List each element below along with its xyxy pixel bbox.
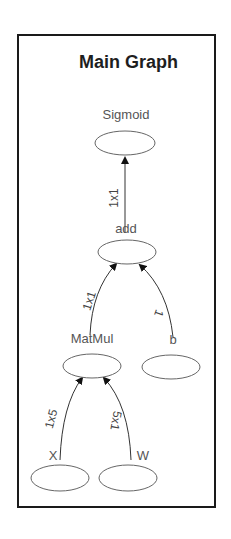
svg-text:Sigmoid: Sigmoid [103, 107, 150, 122]
svg-text:W: W [137, 448, 150, 463]
svg-text:X: X [49, 448, 58, 463]
node-sigmoid[interactable]: Sigmoid [95, 107, 155, 155]
svg-text:MatMul: MatMul [71, 331, 114, 346]
edge-w-to-matmul: 5x1 [104, 378, 131, 460]
node-b[interactable]: b [142, 332, 200, 379]
svg-text:5x1: 5x1 [107, 410, 124, 432]
node-matmul[interactable]: MatMul [63, 331, 121, 378]
node-w[interactable]: W [99, 448, 157, 491]
svg-text:1x1: 1x1 [80, 289, 99, 312]
svg-text:1x5: 1x5 [42, 407, 61, 430]
svg-text:b: b [169, 332, 176, 347]
svg-text:1: 1 [151, 308, 167, 319]
edge-b-to-add: 1 [140, 265, 173, 337]
node-add[interactable]: add [98, 221, 156, 264]
svg-text:1x1: 1x1 [107, 188, 121, 208]
edge-matmul-to-add: 1x1 [80, 264, 116, 335]
svg-text:add: add [115, 221, 137, 236]
graph-canvas: 1x1 1x1 1 1x5 5x1 Sigmoid add MatMul b X… [0, 0, 231, 539]
